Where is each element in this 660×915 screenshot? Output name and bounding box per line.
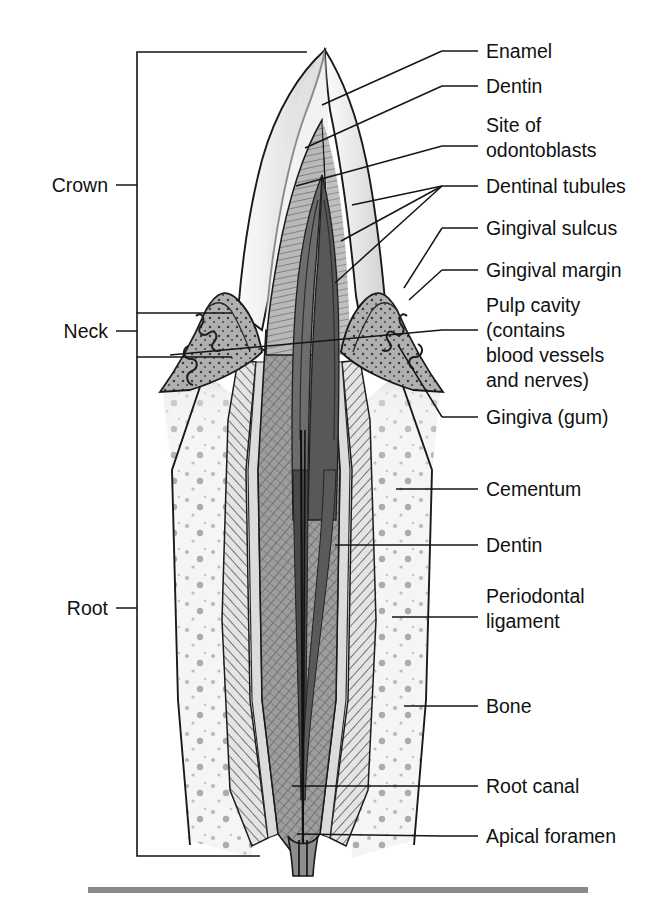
label-apical-foramen: Apical foramen xyxy=(486,825,616,847)
diagram-canvas: EnamelDentinSite ofodontoblastsDentinal … xyxy=(0,0,660,915)
leader-gingival-sulcus xyxy=(404,228,442,288)
right-labels: EnamelDentinSite ofodontoblastsDentinal … xyxy=(442,40,626,847)
left-labels: CrownNeckRoot xyxy=(52,174,137,619)
label-gingiva: Gingiva (gum) xyxy=(486,406,608,428)
label-crown: Crown xyxy=(52,174,108,196)
leader-gingival-margin xyxy=(409,270,442,300)
label-enamel: Enamel xyxy=(486,40,552,62)
tooth-anatomy-figure: EnamelDentinSite ofodontoblastsDentinal … xyxy=(0,0,660,915)
label-bone: Bone xyxy=(486,695,532,717)
label-dentinal-tubules: Dentinal tubules xyxy=(486,175,626,197)
label-site-odontoblasts: Site ofodontoblasts xyxy=(486,114,597,161)
label-cementum: Cementum xyxy=(486,478,581,500)
label-root: Root xyxy=(67,597,109,619)
label-gingival-sulcus: Gingival sulcus xyxy=(486,217,617,239)
label-neck: Neck xyxy=(64,320,109,342)
label-root-canal: Root canal xyxy=(486,775,579,797)
label-dentin-crown: Dentin xyxy=(486,75,542,97)
label-gingival-margin: Gingival margin xyxy=(486,259,621,281)
label-dentin-root: Dentin xyxy=(486,534,542,556)
label-periodontal-ligament: Periodontalligament xyxy=(486,585,585,632)
bottom-rule xyxy=(88,887,588,893)
label-pulp-cavity: Pulp cavity(containsblood vesselsand ner… xyxy=(486,294,604,391)
